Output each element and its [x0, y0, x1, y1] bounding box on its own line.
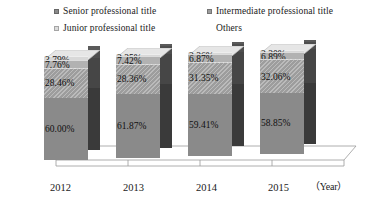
segment-2014-intermediate[interactable]: 31.35%	[188, 62, 232, 95]
segment-label-2014-senior: 59.41%	[189, 120, 218, 130]
segment-2013-senior[interactable]: 61.87%	[116, 94, 160, 158]
segment-label-2015-intermediate: 32.06%	[261, 72, 290, 82]
legend-item-intermediate[interactable]: Intermediate professional title	[207, 6, 333, 17]
segment-2012-intermediate[interactable]: 28.46%	[44, 68, 88, 98]
bar-side-2012-intermediate	[88, 58, 100, 88]
x-axis-label-2013: 2013	[123, 182, 144, 194]
segment-2013-junior[interactable]: 7.42%	[116, 56, 160, 64]
bar-side-2015-intermediate	[304, 49, 316, 82]
stacked-bar-chart: Senior professional title Intermediate p…	[0, 0, 368, 210]
legend-label-junior: Junior professional title	[63, 23, 155, 34]
legend-label-senior: Senior professional title	[63, 6, 156, 17]
segment-2012-senior[interactable]: 60.00%	[44, 98, 88, 160]
legend-swatch-junior	[54, 26, 59, 31]
segment-2013-intermediate[interactable]: 28.36%	[116, 64, 160, 93]
segment-label-2012-senior: 60.00%	[45, 124, 74, 134]
legend-item-others[interactable]: Others	[207, 23, 242, 34]
segment-2012-junior[interactable]: 7.76%	[44, 60, 88, 68]
legend-item-senior[interactable]: Senior professional title	[54, 6, 156, 17]
x-axis-unit-label: （Year）	[310, 181, 347, 193]
bar-front-2014: 2.36%6.87%31.35%59.41%	[188, 52, 232, 156]
legend-swatch-senior	[54, 9, 59, 14]
segment-2014-junior[interactable]: 6.87%	[188, 54, 232, 61]
segment-label-2015-senior: 58.85%	[261, 118, 290, 128]
bar-side-2012-senior	[88, 88, 100, 150]
chart-legend: Senior professional title Intermediate p…	[0, 6, 368, 40]
bar-side-2013-senior	[160, 84, 172, 148]
x-axis-label-2014: 2014	[196, 182, 217, 194]
bar-side-2014-senior	[232, 84, 244, 146]
legend-swatch-others	[207, 26, 212, 31]
segment-2014-senior[interactable]: 59.41%	[188, 94, 232, 156]
segment-2015-senior[interactable]: 58.85%	[260, 93, 304, 154]
x-axis-label-2015: 2015	[268, 182, 289, 194]
segment-label-2013-senior: 61.87%	[117, 121, 146, 131]
bar-front-2015: 2.20%6.89%32.06%58.85%	[260, 50, 304, 154]
legend-swatch-intermediate	[207, 9, 212, 14]
bar-side-2013-intermediate	[160, 54, 172, 83]
bar-side-2015-senior	[304, 83, 316, 144]
segment-label-2013-intermediate: 28.36%	[117, 74, 146, 84]
legend-label-intermediate: Intermediate professional title	[216, 6, 333, 17]
legend-label-others: Others	[216, 23, 242, 34]
segment-label-2012-intermediate: 28.46%	[45, 78, 74, 88]
legend-item-junior[interactable]: Junior professional title	[54, 23, 155, 34]
bar-side-2014-intermediate	[232, 52, 244, 85]
segment-2015-junior[interactable]: 6.89%	[260, 52, 304, 59]
bar-front-2013: 2.35%7.42%28.36%61.87%	[116, 54, 160, 158]
segment-2015-intermediate[interactable]: 32.06%	[260, 59, 304, 92]
bar-front-2012: 3.79%7.76%28.46%60.00%	[44, 56, 88, 160]
segment-label-2014-intermediate: 31.35%	[189, 73, 218, 83]
x-axis-label-2012: 2012	[50, 182, 71, 194]
